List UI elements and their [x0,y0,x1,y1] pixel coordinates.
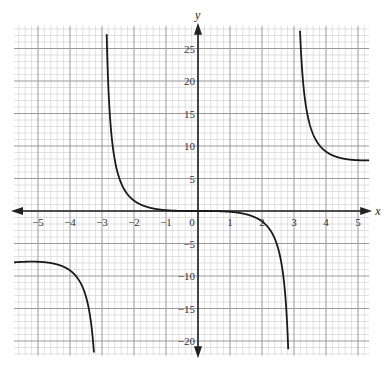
y-tick-label: −20 [178,335,196,347]
y-tick-label: 20 [184,75,196,87]
x-axis-arrow-right-icon [360,207,372,215]
x-tick-label: 0 [189,216,195,228]
x-tick-label: 3 [291,216,297,228]
y-tick-label: 25 [184,43,196,55]
x-tick-label: −2 [128,216,140,228]
y-tick-label: 5 [190,173,196,185]
tick-labels: −5−4−3−2−1012345−20−15−10−5510152025 [32,43,361,348]
x-tick-label: 5 [355,216,361,228]
x-axis-arrow-left-icon [11,207,23,215]
y-tick-label: 10 [184,140,196,152]
x-tick-label: −5 [32,216,44,228]
function-graph: −5−4−3−2−1012345−20−15−10−5510152025 x y [0,0,392,368]
y-tick-label: −15 [178,303,196,315]
x-tick-label: 4 [323,216,329,228]
y-axis-arrow-down-icon [194,346,202,358]
x-tick-label: −4 [64,216,76,228]
y-tick-label: −10 [178,270,196,282]
x-axis-label: x [374,204,381,218]
x-tick-label: −1 [160,216,172,228]
curve-branch [300,31,369,161]
curve-branch [14,262,94,353]
curve-branch [107,34,198,211]
y-axis-label: y [194,8,201,22]
x-tick-label: 1 [227,216,233,228]
y-tick-label: 15 [184,108,196,120]
x-tick-label: −3 [96,216,108,228]
y-tick-label: −5 [183,238,195,250]
